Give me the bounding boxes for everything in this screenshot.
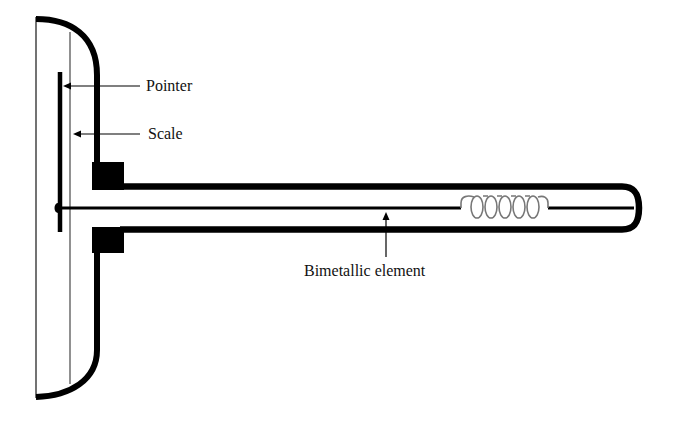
bimetallic-thermometer-diagram: Pointer Scale Bimetallic element [0,0,673,424]
pointer-label: Pointer [146,77,193,94]
bimetallic-coil [461,196,548,218]
housing-bottom-curve [36,230,97,397]
pointer-arrowhead [63,83,71,90]
housing-top-curve [36,19,97,186]
top-mounting-block [92,162,124,190]
bimetallic-arrowhead [383,212,390,220]
bimetallic-element-label: Bimetallic element [304,262,426,279]
scale-label: Scale [148,125,183,142]
bottom-mounting-block [92,227,124,253]
scale-arrowhead [73,131,81,138]
